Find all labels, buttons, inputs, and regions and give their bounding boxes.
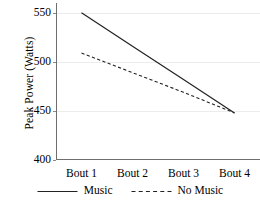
plot-area: 400450500550 (56, 3, 260, 160)
chart-legend: MusicNo Music (0, 183, 260, 199)
x-axis-tick-label: Bout 4 (209, 165, 260, 181)
legend-solid-line-icon (37, 187, 78, 196)
y-axis-tick-label: 550 (5, 7, 51, 19)
chart-figure: Peak Power (Watts) 400450500550 Bout 1Bo… (0, 0, 260, 201)
y-axis-tick (53, 160, 56, 161)
x-axis-tick-label: Bout 3 (158, 165, 209, 181)
y-axis-tick-label: 400 (5, 154, 51, 166)
y-axis-title: Peak Power (Watts) (23, 8, 35, 158)
x-axis-tick-labels: Bout 1Bout 2Bout 3Bout 4 (56, 165, 260, 181)
series-line (82, 53, 235, 113)
legend-dashed-line-icon (131, 187, 172, 196)
y-axis-tick-label: 450 (5, 105, 51, 117)
series-layer (56, 3, 260, 160)
x-axis-tick-label: Bout 2 (107, 165, 158, 181)
legend-label: No Music (178, 185, 224, 197)
legend-item[interactable]: Music (37, 185, 113, 197)
x-axis-tick-label: Bout 1 (56, 165, 107, 181)
series-line (82, 13, 235, 113)
y-axis-tick-label: 500 (5, 56, 51, 68)
legend-label: Music (84, 185, 113, 197)
legend-item[interactable]: No Music (131, 185, 224, 197)
